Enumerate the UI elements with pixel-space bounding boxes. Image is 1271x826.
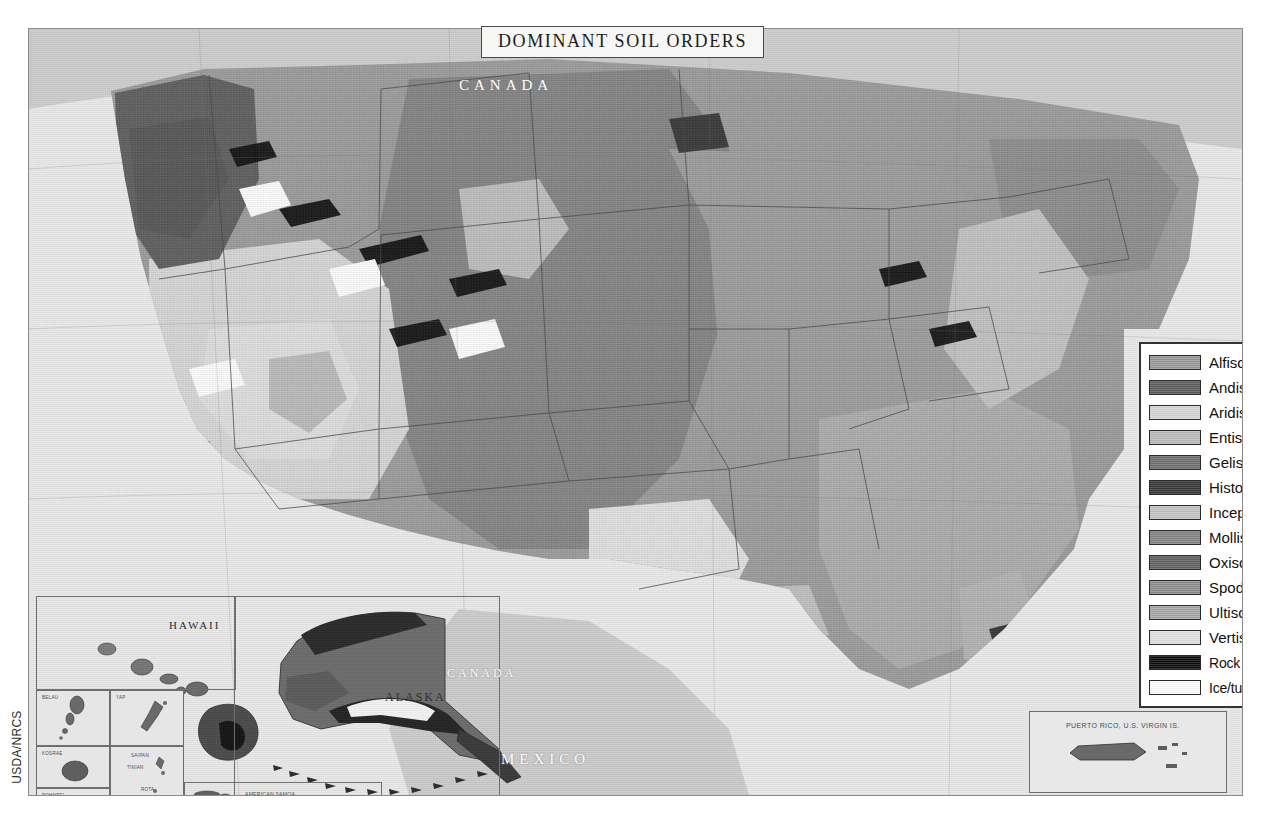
label-mexico: MEXICO bbox=[501, 751, 590, 768]
inset-tinian-title: TINIAN bbox=[127, 765, 144, 770]
legend-label-histosols: Histosols bbox=[1209, 479, 1243, 496]
soil-map-page: CANADA MEXICO HAWAII BELAU KOSRAE bbox=[0, 0, 1271, 826]
legend-swatch-andisols bbox=[1149, 380, 1201, 395]
inset-hawaii-title: HAWAII bbox=[169, 619, 220, 631]
legend-label-ultisols: Ultisols bbox=[1209, 604, 1243, 621]
legend-swatch-histosols bbox=[1149, 480, 1201, 495]
inset-puerto-rico: PUERTO RICO, U.S. VIRGIN IS. bbox=[1029, 711, 1227, 793]
inset-kosrae-title: KOSRAE bbox=[42, 751, 63, 756]
inset-belau: BELAU bbox=[36, 690, 110, 746]
inset-pohnpei: POHNPEI bbox=[36, 788, 110, 796]
legend-row[interactable]: Alfisols bbox=[1149, 350, 1243, 375]
legend-swatch-spodosols bbox=[1149, 580, 1201, 595]
legend-swatch-alfisols bbox=[1149, 355, 1201, 370]
legend-label-aridisols: Aridisols bbox=[1209, 404, 1243, 421]
legend-row[interactable]: Histosols bbox=[1149, 475, 1243, 500]
legend-label-gelisols: Gelisols bbox=[1209, 454, 1243, 471]
legend-swatch-entisols bbox=[1149, 430, 1201, 445]
legend-label-vertisols: Vertisols bbox=[1209, 629, 1243, 646]
legend-swatch-gelisols bbox=[1149, 455, 1201, 470]
inset-yap-title: YAP bbox=[116, 695, 126, 700]
legend-swatch-inceptisols bbox=[1149, 505, 1201, 520]
legend-swatch-ice-tundra bbox=[1149, 680, 1201, 695]
legend-row[interactable]: Inceptisols bbox=[1149, 500, 1243, 525]
legend-label-alfisols: Alfisols bbox=[1209, 354, 1243, 371]
legend-row[interactable]: Ultisols bbox=[1149, 600, 1243, 625]
page-title: DOMINANT SOIL ORDERS bbox=[498, 31, 747, 52]
legend-label-entisols: Entisols bbox=[1209, 429, 1243, 446]
source-credit: USDA/NRCS bbox=[10, 702, 24, 792]
inset-saipan-title: SAIPAN bbox=[131, 753, 149, 758]
legend-swatch-oxisols bbox=[1149, 555, 1201, 570]
legend-row[interactable]: Entisols bbox=[1149, 425, 1243, 450]
legend-row[interactable]: Gelisols bbox=[1149, 450, 1243, 475]
inset-kosrae: KOSRAE bbox=[36, 746, 110, 788]
legend-label-ice-tundra: Ice/tundra bbox=[1209, 680, 1243, 696]
legend-row[interactable]: Rock outcrop bbox=[1149, 650, 1243, 675]
inset-marianas: SAIPAN TINIAN ROTA GUAM bbox=[110, 746, 184, 796]
legend-label-rock-outcrop: Rock outcrop bbox=[1209, 655, 1243, 671]
inset-yap: YAP bbox=[110, 690, 184, 746]
main-map-frame: CANADA MEXICO HAWAII BELAU KOSRAE bbox=[28, 28, 1243, 796]
inset-puerto-rico-title: PUERTO RICO, U.S. VIRGIN IS. bbox=[1066, 722, 1180, 729]
inset-alaska-canada-label: CANADA bbox=[447, 666, 516, 681]
legend-swatch-aridisols bbox=[1149, 405, 1201, 420]
legend-row[interactable]: Oxisols bbox=[1149, 550, 1243, 575]
legend-row[interactable]: Andisols bbox=[1149, 375, 1243, 400]
legend-row[interactable]: Aridisols bbox=[1149, 400, 1243, 425]
inset-belau-title: BELAU bbox=[42, 695, 58, 700]
inset-hawaii: HAWAII bbox=[36, 596, 236, 690]
legend-label-andisols: Andisols bbox=[1209, 379, 1243, 396]
legend-row[interactable]: Vertisols bbox=[1149, 625, 1243, 650]
label-canada: CANADA bbox=[459, 77, 553, 94]
legend-swatch-vertisols bbox=[1149, 630, 1201, 645]
legend-row[interactable]: Spodosols bbox=[1149, 575, 1243, 600]
legend-label-spodosols: Spodosols bbox=[1209, 579, 1243, 596]
inset-alaska: ALASKA bbox=[234, 596, 500, 796]
map-title-plate: DOMINANT SOIL ORDERS bbox=[481, 26, 764, 58]
legend-row[interactable]: Mollisols bbox=[1149, 525, 1243, 550]
legend-row[interactable]: Ice/tundra bbox=[1149, 675, 1243, 700]
legend-swatch-rock-outcrop bbox=[1149, 655, 1201, 670]
legend-label-mollisols: Mollisols bbox=[1209, 529, 1243, 546]
inset-alaska-title: ALASKA bbox=[385, 690, 446, 705]
legend-swatch-ultisols bbox=[1149, 605, 1201, 620]
legend-label-inceptisols: Inceptisols bbox=[1209, 504, 1243, 521]
inset-rota-title: ROTA bbox=[141, 787, 154, 792]
legend-label-oxisols: Oxisols bbox=[1209, 554, 1243, 571]
legend-swatch-mollisols bbox=[1149, 530, 1201, 545]
inset-pohnpei-title: POHNPEI bbox=[42, 793, 64, 796]
map-legend: Alfisols Andisols Aridisols Entisols Gel… bbox=[1139, 342, 1243, 708]
